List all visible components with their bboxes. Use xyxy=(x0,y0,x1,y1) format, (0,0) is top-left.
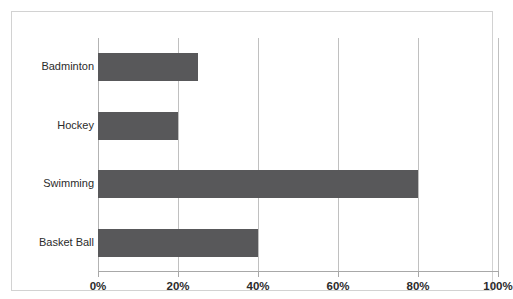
gridline-80 xyxy=(418,38,419,272)
x-tick-label-0: 0% xyxy=(90,280,107,292)
x-axis-line xyxy=(98,271,499,272)
gridline-40 xyxy=(258,38,259,272)
x-tick-label-60: 60% xyxy=(326,280,349,292)
x-tick-label-80: 80% xyxy=(406,280,429,292)
plot-area xyxy=(98,38,498,272)
y-axis-label-badminton: Badminton xyxy=(22,60,94,72)
y-axis-label-basket-ball: Basket Ball xyxy=(22,236,94,248)
bar-basket-ball xyxy=(98,229,258,257)
x-tick-label-20: 20% xyxy=(166,280,189,292)
tickmark-80 xyxy=(418,272,419,277)
y-axis-category-labels: BadmintonHockeySwimmingBasket Ball xyxy=(20,38,94,272)
tickmark-20 xyxy=(178,272,179,277)
bar-badminton xyxy=(98,53,198,81)
tickmark-0 xyxy=(98,272,99,277)
gridline-60 xyxy=(338,38,339,272)
tickmark-40 xyxy=(258,272,259,277)
tickmark-100 xyxy=(498,272,499,277)
bar-swimming xyxy=(98,170,418,198)
x-tick-label-100: 100% xyxy=(483,280,512,292)
bar-hockey xyxy=(98,112,178,140)
y-axis-label-swimming: Swimming xyxy=(22,177,94,189)
gridline-100 xyxy=(498,38,499,272)
x-tick-label-40: 40% xyxy=(246,280,269,292)
cropped-title-remnant xyxy=(0,0,488,8)
chart-frame: BadmintonHockeySwimmingBasket Ball 0%20%… xyxy=(11,11,493,291)
tickmark-60 xyxy=(338,272,339,277)
y-axis-label-hockey: Hockey xyxy=(22,119,94,131)
x-axis-tick-labels: 0%20%40%60%80%100% xyxy=(12,280,500,299)
